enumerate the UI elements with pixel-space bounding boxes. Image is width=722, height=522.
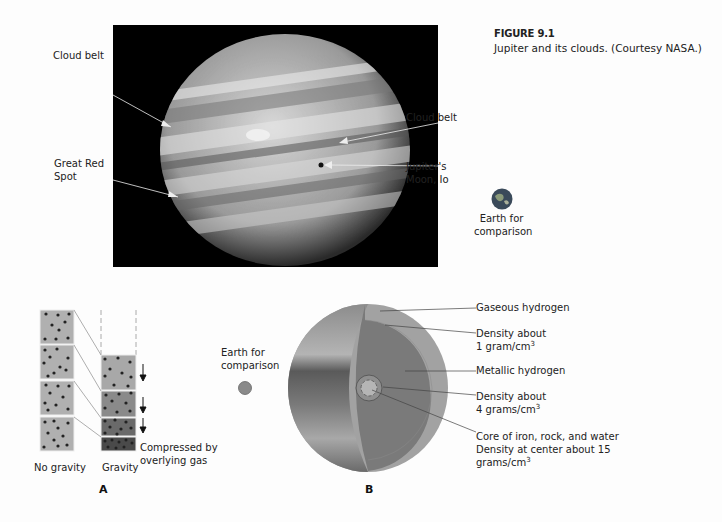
label-no-gravity: No gravity: [34, 461, 86, 474]
density-1-value: 1 gram/cm: [476, 341, 530, 352]
figure-number: FIGURE 9.1: [494, 28, 555, 39]
label-cloud-belt-left: Cloud belt: [53, 49, 104, 62]
core-density-sup: 3: [526, 456, 530, 464]
label-earth-b-2: comparison: [221, 359, 279, 372]
label-great-red-spot-1: Great Red: [54, 157, 104, 170]
label-core-line1: Core of iron, rock, and water: [476, 430, 619, 443]
density-4-value: 4 grams/cm: [476, 404, 536, 415]
label-density-4-line1: Density about: [476, 390, 546, 403]
io-moon: [319, 163, 324, 168]
label-io-2: Moon, Io: [406, 173, 449, 186]
jupiter-photo: [113, 25, 438, 267]
label-gaseous-hydrogen: Gaseous hydrogen: [476, 301, 570, 314]
jupiter-image: [113, 25, 438, 267]
label-compressed-2: overlying gas: [140, 454, 207, 467]
panel-letter-a: A: [99, 483, 108, 496]
figure-caption: Jupiter and its clouds. (Courtesy NASA.): [494, 42, 702, 54]
core-density-value: grams/cm: [476, 457, 526, 468]
label-great-red-spot-2: Spot: [54, 170, 77, 183]
density-1-sup: 3: [530, 340, 534, 348]
label-core-line2: Density at center about 15: [476, 443, 611, 456]
label-io-1: Jupiter's: [406, 160, 447, 173]
label-density-1-line1: Density about: [476, 327, 546, 340]
earth-icon: [490, 187, 514, 211]
label-core-line3: grams/cm3: [476, 456, 531, 469]
label-density-4-line2: 4 grams/cm3: [476, 403, 540, 416]
label-earth-top-1: Earth for: [474, 212, 529, 225]
label-cloud-belt-right: Cloud belt: [406, 111, 457, 124]
panel-letter-b: B: [365, 483, 373, 496]
label-metallic-hydrogen: Metallic hydrogen: [476, 364, 565, 377]
density-4-sup: 3: [536, 403, 540, 411]
label-earth-top-2: comparison: [474, 225, 529, 238]
label-gravity: Gravity: [102, 461, 139, 474]
label-density-1-line2: 1 gram/cm3: [476, 340, 535, 353]
label-earth-b-1: Earth for: [221, 346, 265, 359]
label-compressed-1: Compressed by: [140, 441, 218, 454]
